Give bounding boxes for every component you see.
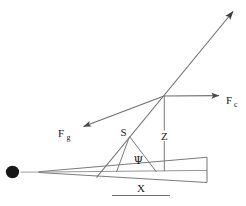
slant-triangle-left-leg (117, 137, 130, 173)
gravity-force-label: F g (58, 127, 71, 142)
slant-label: S (121, 126, 127, 138)
angle-label: Ψ (134, 154, 144, 167)
gravity-force-label-sub: g (67, 133, 71, 142)
wedge-upper-edge (39, 157, 208, 172)
gravity-force-arrow (84, 96, 165, 127)
centrifugal-force-label: F c (226, 94, 238, 109)
pivot-dot (6, 166, 19, 178)
figure-canvas: F g F c S Z Ψ X (0, 0, 246, 206)
centrifugal-force-label-main: F (226, 94, 232, 106)
centrifugal-force-label-sub: c (234, 100, 238, 109)
force-diagram-svg: F g F c S Z Ψ X (0, 0, 246, 206)
height-label: Z (161, 130, 168, 142)
gravity-force-label-main: F (58, 127, 64, 139)
base-label: X (137, 182, 145, 194)
tapered-wedge (21, 157, 208, 182)
wedge-lower-edge (39, 172, 208, 182)
wedge-centre-line (39, 170, 208, 172)
